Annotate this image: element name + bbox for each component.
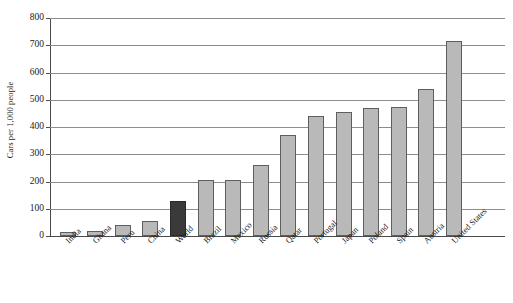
plot-area [50,18,505,236]
bar-poland[interactable] [363,108,379,236]
bar-japan[interactable] [336,112,352,236]
bar-austria[interactable] [418,89,434,236]
y-tick-label-500: 500 [18,95,44,105]
y-tick-label-0: 0 [18,231,44,241]
y-tick-mark-600 [46,73,50,74]
bars-group [50,18,505,236]
bar-russia[interactable] [253,165,269,236]
y-tick-mark-300 [46,154,50,155]
x-axis-tick-labels: IndiaGhanaPeruChinaWorldBrazilMexicoRuss… [50,237,513,303]
y-tick-mark-200 [46,182,50,183]
y-tick-label-100: 100 [18,204,44,214]
bar-portugal[interactable] [308,116,324,236]
y-tick-label-800: 800 [18,13,44,23]
y-tick-label-700: 700 [18,40,44,50]
y-tick-label-400: 400 [18,122,44,132]
y-tick-mark-0 [46,236,50,237]
y-tick-label-300: 300 [18,149,44,159]
bar-spain[interactable] [391,107,407,236]
bar-united-states[interactable] [446,41,462,236]
y-tick-mark-400 [46,127,50,128]
bar-chart: Cars per 1,000 people 800700600500400300… [0,0,513,303]
y-tick-label-200: 200 [18,177,44,187]
y-tick-mark-800 [46,18,50,19]
bar-qatar[interactable] [280,135,296,236]
y-tick-mark-500 [46,100,50,101]
y-tick-mark-700 [46,45,50,46]
y-tick-mark-100 [46,209,50,210]
y-axis-tick-labels: 8007006005004003002001000 [12,0,44,260]
y-tick-label-600: 600 [18,68,44,78]
